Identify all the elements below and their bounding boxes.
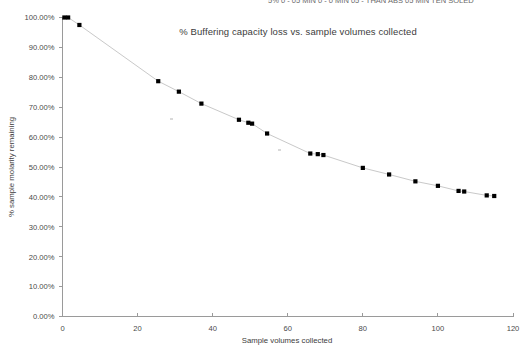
x-tick-label: 100 [432,324,445,333]
y-tick-label: 20.00% [29,253,55,262]
y-tick-label: 60.00% [29,133,55,142]
series-data-point [199,102,203,106]
x-tick-label: 0 [60,324,64,333]
decorative-speck [170,118,173,120]
series-data-point [246,121,250,125]
y-tick-label: 0.00% [33,312,55,321]
x-tick-label: 40 [208,324,216,333]
y-tick-label: 80.00% [29,73,55,82]
series-marker-group [62,15,496,198]
series-data-point [387,172,391,176]
series-data-point [361,166,365,170]
x-tick-label: 80 [359,324,367,333]
series-line [64,18,494,197]
chart-page: 5% 0 - 05 MIN 0 - 0 MIN 05 - THAN ABS 05… [0,0,530,360]
series-data-point [265,131,269,135]
x-tick-label: 120 [507,324,520,333]
y-tick-label: 70.00% [29,103,55,112]
x-tick-label: 60 [284,324,292,333]
series-data-point [62,15,66,19]
series-data-point [462,189,466,193]
y-tick-label: 90.00% [29,43,55,52]
series-data-point [177,90,181,94]
series-data-point [413,179,417,183]
series-data-point [485,193,489,197]
series-data-point [77,23,81,27]
x-axis-tick-group: 020406080100120 [60,313,519,333]
scatter-plot: 0.00%10.00%20.00%30.00%40.00%50.00%60.00… [0,0,530,360]
series-data-point [316,152,320,156]
series-data-point [436,184,440,188]
series-data-point [456,189,460,193]
y-tick-label: 100.00% [25,13,55,22]
decorative-speck [278,149,281,151]
series-data-point [492,194,496,198]
y-axis-tick-group: 0.00%10.00%20.00%30.00%40.00%50.00%60.00… [25,13,63,321]
x-tick-label: 20 [133,324,141,333]
series-data-point [237,118,241,122]
series-data-point [66,15,70,19]
x-axis-title: Sample volumes collected [242,336,333,345]
y-tick-label: 30.00% [29,223,55,232]
y-tick-label: 50.00% [29,163,55,172]
y-tick-label: 40.00% [29,193,55,202]
series-data-point [308,151,312,155]
y-axis-title: % sample molarity remaining [7,117,16,217]
series-data-point [321,153,325,157]
y-tick-label: 10.00% [29,282,55,291]
series-data-point [156,79,160,83]
series-data-point [250,122,254,126]
